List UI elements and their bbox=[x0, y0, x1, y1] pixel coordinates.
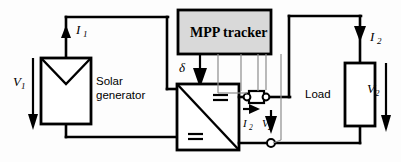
circuit-diagram: Solar generator I 1 V 1 MPP tracker δ bbox=[0, 0, 401, 162]
shunt-voltage-subscript: 2 bbox=[268, 123, 272, 132]
mpp-tracker-label: MPP tracker bbox=[190, 25, 267, 40]
v2-arrowhead-icon bbox=[381, 115, 391, 132]
shunt-current-arrow bbox=[243, 104, 260, 114]
current-in-subscript: 1 bbox=[83, 29, 88, 39]
solar-generator-block bbox=[41, 58, 91, 124]
v1-arrowhead-icon bbox=[28, 114, 38, 130]
solar-generator-body bbox=[41, 58, 91, 124]
current-out-label: I bbox=[369, 29, 375, 44]
current-in-arrow bbox=[61, 25, 71, 38]
solar-generator-label-line1: Solar bbox=[96, 75, 123, 87]
voltage-in-arrow bbox=[28, 58, 38, 130]
shunt-terminal-right-icon bbox=[263, 94, 270, 101]
shunt-terminal-left-icon bbox=[244, 94, 251, 101]
diagram-canvas: Solar generator I 1 V 1 MPP tracker δ bbox=[0, 0, 401, 162]
load-label: Load bbox=[305, 88, 331, 100]
solar-generator-label-line2: generator bbox=[96, 89, 145, 101]
voltage-out-arrow bbox=[381, 63, 391, 132]
i1-arrowhead-icon bbox=[61, 25, 71, 38]
converter-block bbox=[177, 84, 239, 150]
current-in-label: I bbox=[75, 22, 81, 37]
current-out-subscript: 2 bbox=[377, 36, 382, 46]
voltage-in-subscript: 1 bbox=[21, 81, 26, 91]
shunt-resistor bbox=[244, 91, 270, 103]
shunt-current-label: I bbox=[242, 117, 248, 129]
voltage-out-subscript: 2 bbox=[375, 88, 380, 98]
shunt-current-subscript: 2 bbox=[249, 123, 253, 132]
duty-cycle-label: δ bbox=[179, 60, 186, 75]
shunt-i2-arrowhead-icon bbox=[249, 104, 260, 114]
i2-arrowhead-icon bbox=[354, 26, 366, 42]
current-out-arrow bbox=[354, 26, 366, 42]
